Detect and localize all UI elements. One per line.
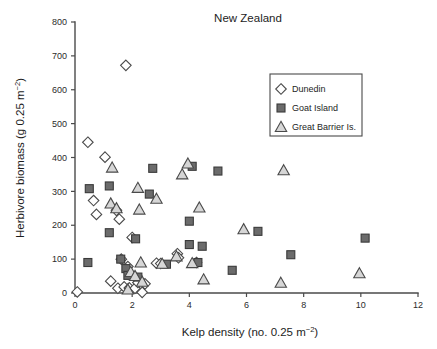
data-point-square	[185, 217, 193, 225]
y-tick-label: 700	[52, 51, 67, 61]
legend-marker-square	[277, 104, 285, 112]
data-point-triangle	[135, 257, 146, 267]
y-tick-label: 400	[52, 153, 67, 163]
legend-label: Great Barrier Is.	[292, 122, 356, 132]
x-tick-label: 10	[356, 300, 366, 310]
y-tick-label: 300	[52, 187, 67, 197]
data-point-square	[214, 167, 222, 175]
y-tick-label: 800	[52, 17, 67, 27]
data-point-diamond	[83, 137, 94, 148]
data-point-square	[287, 251, 295, 259]
data-point-square	[84, 259, 92, 267]
y-tick-label: 600	[52, 85, 67, 95]
data-point-triangle	[194, 202, 205, 212]
scatter-plot-figure: 0100200300400500600700800 024681012 New …	[0, 0, 437, 349]
data-point-diamond	[91, 209, 102, 220]
data-point-square	[361, 234, 369, 242]
x-tick-label: 12	[413, 300, 423, 310]
data-point-triangle	[177, 169, 188, 179]
data-point-triangle	[198, 274, 209, 284]
data-point-square	[117, 255, 125, 263]
data-point-square	[132, 235, 140, 243]
data-point-square	[185, 241, 193, 249]
x-tick-label: 8	[301, 300, 306, 310]
chart-title: New Zealand	[214, 12, 282, 24]
chart-canvas: 0100200300400500600700800 024681012 New …	[0, 0, 437, 349]
x-axis-ticks: 024681012	[72, 293, 423, 310]
data-point-diamond	[88, 195, 99, 206]
x-axis-title: Kelp density (no. 0.25 m−2)	[182, 325, 319, 338]
data-point-triangle	[132, 182, 143, 192]
data-point-diamond	[105, 276, 116, 287]
x-tick-label: 6	[244, 300, 249, 310]
data-point-square	[105, 182, 113, 190]
data-point-square	[149, 164, 157, 172]
data-point-diamond	[121, 60, 132, 71]
data-point-triangle	[106, 162, 117, 172]
data-point-diamond	[100, 152, 111, 163]
data-point-diamond	[72, 287, 83, 298]
y-tick-label: 200	[52, 220, 67, 230]
y-tick-label: 0	[62, 288, 67, 298]
data-point-triangle	[238, 224, 249, 234]
legend: DunedinGoat IslandGreat Barrier Is.	[270, 74, 362, 136]
data-point-square	[228, 266, 236, 274]
data-point-square	[85, 185, 93, 193]
data-point-triangle	[134, 204, 145, 214]
y-axis-title: Herbivore biomass (g 0.25 m−2)	[13, 78, 26, 238]
data-point-triangle	[354, 268, 365, 278]
x-tick-label: 4	[187, 300, 192, 310]
x-tick-label: 0	[72, 300, 77, 310]
x-tick-label: 2	[130, 300, 135, 310]
y-tick-label: 100	[52, 254, 67, 264]
data-point-square	[145, 190, 153, 198]
legend-label: Goat Island	[292, 103, 338, 113]
data-point-triangle	[275, 277, 286, 287]
legend-label: Dunedin	[292, 84, 326, 94]
data-point-square	[254, 227, 262, 235]
data-point-square	[105, 229, 113, 237]
y-tick-label: 500	[52, 119, 67, 129]
data-point-triangle	[278, 165, 289, 175]
data-point-square	[198, 242, 206, 250]
y-axis-ticks: 0100200300400500600700800	[52, 17, 75, 298]
